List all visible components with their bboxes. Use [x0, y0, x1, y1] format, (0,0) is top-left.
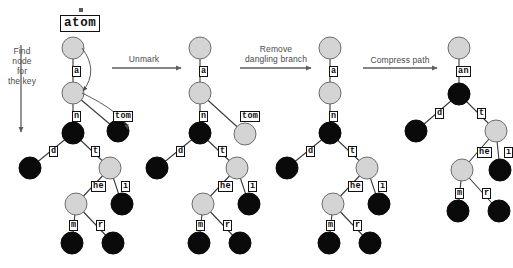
- trie-node-unmarked: [319, 37, 341, 59]
- trie-node-marked: [107, 120, 129, 142]
- edge-label-d: d: [435, 108, 444, 119]
- step-label-find: Find node for the key: [0, 46, 44, 86]
- trie-node-marked: [447, 200, 469, 222]
- edge-label-r: r: [96, 220, 105, 231]
- trie-node-unmarked: [448, 37, 470, 59]
- edge-label-tom: tom: [113, 111, 133, 122]
- trie-node-unmarked: [234, 123, 256, 145]
- step-label-unmark: Unmark: [113, 54, 175, 64]
- trie-node-unmarked: [189, 37, 211, 59]
- edge-label-tom: tom: [240, 111, 260, 122]
- tree-edges-layer: [30, 48, 500, 243]
- trie-node-unmarked: [322, 193, 344, 215]
- trie-node-marked: [276, 157, 298, 179]
- edge-label-n: n: [199, 111, 208, 122]
- step-label-remove: Remove dangling branch: [238, 44, 314, 64]
- key-mark-tick: [79, 8, 83, 12]
- trie-node-marked: [61, 232, 83, 254]
- edge-label-t: t: [218, 146, 227, 157]
- trie-node-marked: [189, 122, 211, 144]
- edge-label-d: d: [49, 146, 58, 157]
- edge-label-he: he: [218, 181, 233, 192]
- edge-label-a: a: [329, 66, 338, 77]
- trie-node-marked: [146, 157, 168, 179]
- edge-label-d: d: [176, 146, 185, 157]
- edge-label-i: i: [504, 147, 513, 158]
- trie-node-unmarked: [192, 193, 214, 215]
- trie-node-marked: [359, 232, 381, 254]
- search-path-arrow: [82, 48, 91, 91]
- trie-node-marked: [188, 232, 210, 254]
- trie-node-unmarked: [485, 120, 507, 142]
- trie-node-marked: [318, 232, 340, 254]
- edge-label-i: i: [121, 181, 130, 192]
- edge-label-t: t: [477, 108, 486, 119]
- trie-node-marked: [489, 159, 511, 181]
- trie-node-unmarked: [189, 82, 211, 104]
- edge-label-i: i: [378, 181, 387, 192]
- edge-label-t: t: [91, 146, 100, 157]
- edge-label-he: he: [91, 181, 106, 192]
- trie-node-unmarked: [62, 37, 84, 59]
- edge-label-an: an: [456, 66, 471, 77]
- trie-node-marked: [111, 193, 133, 215]
- edge-label-r: r: [223, 220, 232, 231]
- trie-node-marked: [238, 193, 260, 215]
- edge-label-m: m: [326, 220, 335, 231]
- trie-node-marked: [62, 122, 84, 144]
- trie-node-unmarked: [356, 157, 378, 179]
- edge-label-m: m: [455, 188, 464, 199]
- trie-node-marked: [319, 122, 341, 144]
- edge-label-he: he: [348, 181, 363, 192]
- step-label-compress: Compress path: [362, 55, 438, 65]
- edge-label-a: a: [72, 66, 81, 77]
- trie-node-marked: [102, 232, 124, 254]
- search-key-box: atom: [60, 15, 100, 32]
- edge-label-m: m: [196, 220, 205, 231]
- trie-node-marked: [19, 157, 41, 179]
- edge-label-d: d: [306, 146, 315, 157]
- trie-node-unmarked: [99, 157, 121, 179]
- patricia-trie-operation-diagram: atom Find node for the key Unmark Remove…: [0, 0, 513, 268]
- edge-label-r: r: [482, 188, 491, 199]
- trie-node-marked: [229, 232, 251, 254]
- edge-label-r: r: [353, 220, 362, 231]
- trie-node-unmarked: [319, 82, 341, 104]
- trie-node-marked: [405, 120, 427, 142]
- trie-node-unmarked: [226, 157, 248, 179]
- edge-label-n: n: [72, 111, 81, 122]
- trie-node-unmarked: [62, 82, 84, 104]
- edge-label-m: m: [69, 220, 78, 231]
- trie-node-unmarked: [451, 159, 473, 181]
- trie-node-marked: [488, 200, 510, 222]
- trie-node-unmarked: [65, 193, 87, 215]
- trie-node-marked: [368, 193, 390, 215]
- edge-label-a: a: [199, 66, 208, 77]
- edge-label-n: n: [329, 111, 338, 122]
- edge-label-i: i: [248, 181, 257, 192]
- edge-label-he: he: [477, 147, 492, 158]
- edge-label-t: t: [348, 146, 357, 157]
- trie-node-marked: [448, 83, 470, 105]
